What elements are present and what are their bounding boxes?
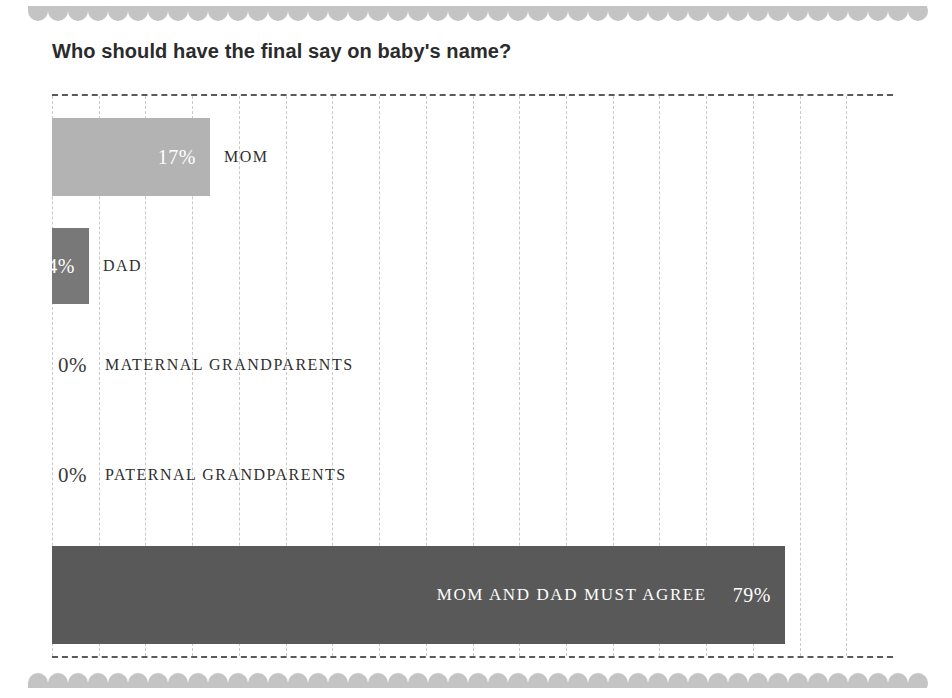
chart-bar-row[interactable]: 4%DAD [52,228,893,304]
chart-bar[interactable]: 17% [52,118,210,196]
chart-bar-value: 17% [158,146,210,169]
chart-bars: 17%MOM4%DAD0%MATERNAL GRANDPARENTS0%PATE… [52,96,893,656]
chart-bar-label: MOM AND DAD MUST AGREE [437,585,733,605]
chart-bar-value: 0% [52,463,87,488]
chart-bar-row[interactable]: MOM AND DAD MUST AGREE79% [52,546,893,644]
chart-bar-row[interactable]: 0%PATERNAL GRANDPARENTS [52,456,893,494]
chart-plot-area: 17%MOM4%DAD0%MATERNAL GRANDPARENTS0%PATE… [52,94,893,658]
chart-bar-value: 79% [733,584,785,607]
chart-bar-value: 4% [47,255,89,278]
chart-bar-label: MATERNAL GRANDPARENTS [87,356,354,374]
chart-bar[interactable]: MOM AND DAD MUST AGREE79% [52,546,785,644]
chart-bar-label: PATERNAL GRANDPARENTS [87,466,347,484]
chart-bar-value: 0% [52,353,87,378]
chart-title: Who should have the final say on baby's … [52,40,511,63]
chart-bar-row[interactable]: 0%MATERNAL GRANDPARENTS [52,346,893,384]
scalloped-border-top [0,6,952,28]
chart-bar-label: DAD [89,257,142,275]
chart-bar-row[interactable]: 17%MOM [52,118,893,196]
scalloped-border-bottom [0,666,952,688]
chart-bar[interactable]: 4% [52,228,89,304]
chart-bar-label: MOM [210,148,269,166]
